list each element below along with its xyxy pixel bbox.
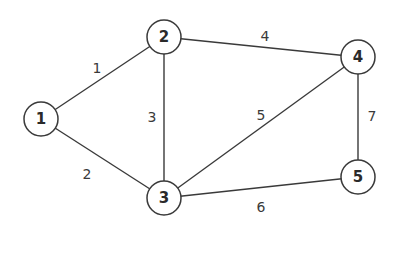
nodes-layer: 1 2 3 4 5 [24, 20, 375, 215]
node-5: 5 [341, 160, 375, 194]
edge-weight-2-3: 3 [148, 109, 157, 125]
edge-3-4 [164, 57, 358, 198]
node-label: 5 [353, 168, 363, 186]
node-label: 3 [159, 189, 169, 207]
graph-diagram: 1 2 3 4 5 6 7 1 2 3 4 5 [0, 0, 401, 260]
node-1: 1 [24, 102, 58, 136]
edge-weight-4-5: 7 [368, 108, 377, 124]
node-label: 1 [36, 110, 46, 128]
edge-weight-3-5: 6 [257, 199, 266, 215]
edge-1-3 [41, 119, 164, 198]
edge-3-5 [164, 177, 358, 198]
edge-weight-3-4: 5 [257, 107, 266, 123]
edge-weight-1-3: 2 [83, 166, 92, 182]
edge-labels-layer: 1 2 3 4 5 6 7 [83, 28, 377, 215]
node-label: 4 [353, 48, 363, 66]
edge-1-2 [41, 37, 164, 119]
node-2: 2 [147, 20, 181, 54]
edge-weight-1-2: 1 [93, 60, 102, 76]
node-4: 4 [341, 40, 375, 74]
edge-weight-2-4: 4 [261, 28, 270, 44]
node-3: 3 [147, 181, 181, 215]
node-label: 2 [159, 28, 169, 46]
